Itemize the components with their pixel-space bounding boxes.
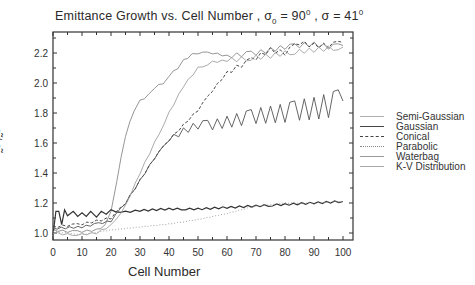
x-tick-label: 90: [308, 247, 320, 258]
x-tick-label: 0: [50, 247, 56, 258]
legend-line-swatch: [360, 136, 384, 137]
legend-line-swatch: [360, 146, 384, 147]
x-tick-label: 50: [192, 247, 204, 258]
y-tick-label: 1.6: [34, 138, 48, 149]
x-axis-label: Cell Number: [128, 264, 200, 279]
y-tick-label: 2.0: [34, 78, 48, 89]
legend-item: Parabolic: [360, 141, 465, 151]
legend-line-swatch: [360, 116, 384, 117]
x-tick-label: 30: [134, 247, 146, 258]
y-axis-label: ε̃ / ε̃ᵢ: [0, 128, 4, 151]
legend: Semi-GaussianGaussianConicalParabolicWat…: [360, 111, 465, 171]
x-tick-label: 80: [279, 247, 291, 258]
y-tick-label: 1.4: [34, 168, 48, 179]
legend-item: K-V Distribution: [360, 161, 465, 171]
series-line-conical: [53, 41, 343, 227]
x-tick-label: 100: [335, 247, 352, 258]
x-tick-label: 20: [105, 247, 117, 258]
x-tick-label: 70: [250, 247, 262, 258]
y-tick-label: 1.8: [34, 108, 48, 119]
x-tick-label: 60: [221, 247, 233, 258]
legend-line-swatch: [360, 166, 384, 167]
x-tick-label: 10: [76, 247, 88, 258]
y-tick-label: 1.0: [34, 228, 48, 239]
legend-item: Gaussian: [360, 121, 465, 131]
legend-line-swatch: [360, 156, 384, 157]
legend-item: Conical: [360, 131, 465, 141]
legend-item: Waterbag: [360, 151, 465, 161]
chart-figure: Emittance Growth vs. Cell Number , σ0 = …: [0, 0, 475, 285]
legend-item: Semi-Gaussian: [360, 111, 465, 121]
series-line-k-v-distribution: [53, 46, 343, 235]
y-tick-label: 2.2: [34, 48, 48, 59]
y-tick-label: 1.2: [34, 198, 48, 209]
legend-label: K-V Distribution: [396, 161, 465, 172]
x-tick-label: 40: [163, 247, 175, 258]
legend-line-swatch: [360, 126, 384, 127]
series-line-gaussian: [53, 201, 343, 235]
